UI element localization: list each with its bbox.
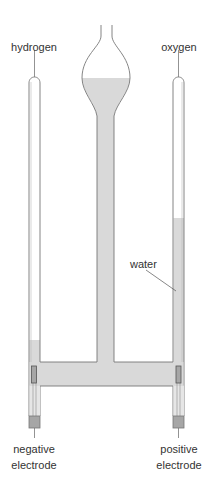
hofmann-voltameter-diagram: hydrogen oxygen water negative electrode… [0, 0, 208, 485]
negative-electrode-label-line1: negative [13, 443, 55, 455]
positive-electrode-plug [173, 416, 184, 428]
oxygen-tube [173, 50, 184, 386]
negative-electrode-plug [29, 416, 40, 428]
water-label: water [129, 258, 157, 270]
negative-electrode-label-line2: electrode [11, 459, 56, 471]
negative-sleeve-fill [30, 386, 41, 416]
hydrogen-tube-outline [29, 77, 40, 386]
negative-electrode-plate [32, 366, 37, 383]
oxygen-tube-water [174, 218, 185, 385]
hydrogen-tube [29, 50, 40, 386]
reservoir-bulb [82, 25, 130, 362]
reservoir-outline-right [112, 25, 130, 362]
water-leader-line [146, 270, 176, 291]
connecting-channel [30, 362, 184, 386]
channel-water [30, 362, 184, 386]
positive-electrode-plate [176, 366, 181, 383]
hydrogen-label: hydrogen [11, 41, 57, 53]
oxygen-label: oxygen [161, 41, 196, 53]
positive-electrode-label-line2: electrode [156, 459, 201, 471]
reservoir-water [82, 78, 130, 362]
positive-electrode-label-line1: positive [160, 443, 197, 455]
positive-sleeve-fill [174, 386, 185, 416]
